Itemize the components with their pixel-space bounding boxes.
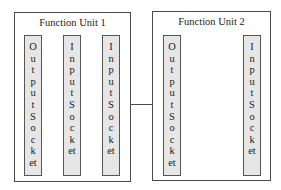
function-unit-2: Function Unit 2 OutputSocket InputSocket — [152, 11, 271, 181]
socket-label-char: I — [250, 41, 254, 53]
socket-label-char: o — [108, 111, 113, 123]
socket-label-char: c — [109, 122, 114, 134]
socket-label-char: k — [30, 145, 35, 157]
input-socket: InputSocket — [243, 35, 261, 176]
socket-label-char: p — [69, 64, 74, 76]
socket-label-char: u — [69, 76, 74, 88]
socket-label-char: u — [169, 87, 174, 99]
socket-label-char: t — [171, 64, 174, 76]
function-unit-1-title: Function Unit 1 — [15, 17, 130, 29]
socket-label-char: O — [29, 41, 37, 53]
socket-label-char: t — [32, 99, 35, 111]
socket-label-char: t — [251, 87, 254, 99]
socket-label-char: o — [169, 122, 174, 134]
socket-label-char: et — [29, 157, 37, 169]
socket-label-char: t — [171, 99, 174, 111]
socket-label-char: u — [169, 53, 174, 65]
socket-label-char: c — [31, 134, 36, 146]
socket-label-char: S — [30, 111, 36, 123]
socket-label-char: S — [249, 99, 255, 111]
socket-label-char: c — [70, 122, 75, 134]
socket-label-char: o — [30, 122, 35, 134]
socket-label-char: t — [110, 87, 113, 99]
socket-label-char: et — [107, 145, 115, 157]
socket-label-char: t — [32, 64, 35, 76]
socket-label-char: u — [30, 53, 35, 65]
socket-label-char: et — [248, 145, 256, 157]
socket-label-char: p — [108, 64, 113, 76]
unit-connector-line — [131, 104, 152, 105]
socket-label-char: u — [249, 76, 254, 88]
socket-label-char: I — [109, 41, 113, 53]
socket-label-char: o — [249, 111, 254, 123]
socket-label-char: k — [108, 134, 113, 146]
socket-label-char: n — [249, 53, 254, 65]
socket-label-char: c — [170, 134, 175, 146]
socket-label-char: et — [168, 157, 176, 169]
socket-label-char: n — [108, 53, 113, 65]
socket-label-char: k — [69, 134, 74, 146]
socket-label-char: t — [71, 87, 74, 99]
socket-label-char: S — [169, 111, 175, 123]
socket-label-char: o — [69, 111, 74, 123]
socket-label-char: S — [108, 99, 114, 111]
socket-label-char: I — [70, 41, 74, 53]
socket-label-char: et — [68, 145, 76, 157]
socket-label-char: n — [69, 53, 74, 65]
socket-label-char: c — [250, 122, 255, 134]
socket-label-char: u — [30, 87, 35, 99]
socket-label-char: O — [168, 41, 176, 53]
socket-label-char: S — [69, 99, 75, 111]
function-unit-1: Function Unit 1 OutputSocket InputSocket… — [14, 12, 131, 182]
socket-label-char: p — [249, 64, 254, 76]
output-socket: OutputSocket — [24, 35, 42, 176]
input-socket: InputSocket — [63, 35, 81, 176]
socket-label-char: u — [108, 76, 113, 88]
function-unit-2-title: Function Unit 2 — [153, 16, 270, 28]
input-socket: InputSocket — [102, 35, 120, 176]
socket-label-char: p — [169, 76, 174, 88]
output-socket: OutputSocket — [163, 35, 181, 176]
socket-label-char: p — [30, 76, 35, 88]
socket-label-char: k — [169, 145, 174, 157]
socket-label-char: k — [249, 134, 254, 146]
